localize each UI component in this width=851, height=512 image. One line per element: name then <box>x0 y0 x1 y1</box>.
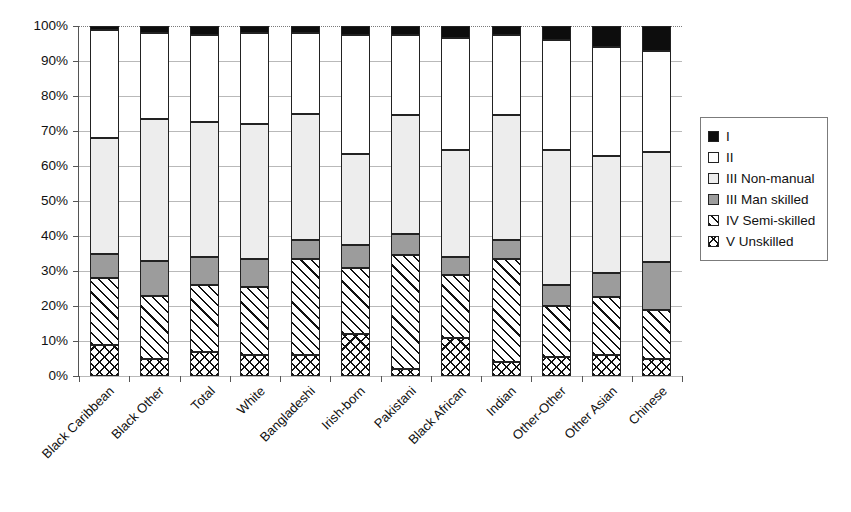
x-axis-label: Pakistani <box>371 384 418 431</box>
bar-segment[interactable] <box>492 240 521 259</box>
bar-segment[interactable] <box>341 245 370 268</box>
bar-other-asian[interactable] <box>592 26 621 376</box>
bar-segment[interactable] <box>492 26 521 35</box>
bar-segment[interactable] <box>542 150 571 285</box>
bar-segment[interactable] <box>291 355 320 376</box>
bar-segment[interactable] <box>190 352 219 377</box>
bar-bangladeshi[interactable] <box>291 26 320 376</box>
bar-segment[interactable] <box>391 255 420 369</box>
bar-white[interactable] <box>240 26 269 376</box>
x-axis-label: Black Other <box>109 384 167 442</box>
bar-segment[interactable] <box>592 273 621 298</box>
bar-segment[interactable] <box>492 35 521 116</box>
bar-segment[interactable] <box>190 285 219 352</box>
bar-segment[interactable] <box>90 278 119 345</box>
y-axis-tick-label: 70% <box>41 124 68 138</box>
bar-segment[interactable] <box>140 33 169 119</box>
bar-segment[interactable] <box>492 115 521 239</box>
bar-segment[interactable] <box>592 156 621 273</box>
bar-segment[interactable] <box>542 26 571 40</box>
bar-segment[interactable] <box>190 26 219 35</box>
bar-segment[interactable] <box>492 259 521 362</box>
plot-area <box>78 26 682 377</box>
bar-segment[interactable] <box>391 26 420 35</box>
bar-segment[interactable] <box>341 334 370 376</box>
bar-segment[interactable] <box>542 357 571 376</box>
bar-segment[interactable] <box>140 261 169 296</box>
bar-segment[interactable] <box>592 355 621 376</box>
bar-segment[interactable] <box>140 26 169 33</box>
bar-segment[interactable] <box>341 154 370 245</box>
bar-black-caribbean[interactable] <box>90 26 119 376</box>
legend-item-i[interactable]: I <box>708 126 821 147</box>
bar-segment[interactable] <box>441 26 470 38</box>
bar-segment[interactable] <box>441 257 470 275</box>
bar-segment[interactable] <box>642 262 671 309</box>
bar-segment[interactable] <box>391 115 420 234</box>
bar-segment[interactable] <box>642 51 671 153</box>
bar-segment[interactable] <box>492 362 521 376</box>
bar-segment[interactable] <box>140 296 169 359</box>
bar-segment[interactable] <box>90 26 119 30</box>
bar-chinese[interactable] <box>642 26 671 376</box>
bar-segment[interactable] <box>341 35 370 154</box>
bar-segment[interactable] <box>441 38 470 150</box>
legend-item-iv-semi-skilled[interactable]: IV Semi-skilled <box>708 210 821 231</box>
bar-segment[interactable] <box>391 234 420 255</box>
bar-segment[interactable] <box>642 359 671 377</box>
bar-segment[interactable] <box>240 26 269 33</box>
bar-other-other[interactable] <box>542 26 571 376</box>
bar-segment[interactable] <box>391 369 420 376</box>
bar-segment[interactable] <box>240 355 269 376</box>
bar-segment[interactable] <box>291 259 320 355</box>
bar-segment[interactable] <box>240 259 269 287</box>
bar-total[interactable] <box>190 26 219 376</box>
x-axis-label: Chinese <box>626 384 670 428</box>
bar-segment[interactable] <box>190 257 219 285</box>
bar-segment[interactable] <box>140 359 169 377</box>
x-axis-label: Irish-born <box>320 384 369 433</box>
legend-item-ii[interactable]: II <box>708 147 821 168</box>
bar-black-african[interactable] <box>441 26 470 376</box>
y-axis-tick-label: 100% <box>33 19 68 33</box>
bar-segment[interactable] <box>542 306 571 357</box>
bar-segment[interactable] <box>291 240 320 259</box>
bar-segment[interactable] <box>140 119 169 261</box>
bar-segment[interactable] <box>90 254 119 279</box>
bar-segment[interactable] <box>391 35 420 116</box>
bar-segment[interactable] <box>542 40 571 150</box>
bar-segment[interactable] <box>341 26 370 35</box>
bar-segment[interactable] <box>341 268 370 335</box>
bar-segment[interactable] <box>592 297 621 355</box>
bar-segment[interactable] <box>90 30 119 139</box>
legend-item-v-unskilled[interactable]: V Unskilled <box>708 231 821 252</box>
bar-segment[interactable] <box>291 114 320 240</box>
bar-segment[interactable] <box>90 345 119 377</box>
y-axis-tick-label: 20% <box>41 299 68 313</box>
bar-segment[interactable] <box>642 310 671 359</box>
bar-segment[interactable] <box>291 26 320 33</box>
bar-segment[interactable] <box>441 338 470 377</box>
bar-segment[interactable] <box>240 33 269 124</box>
bar-segment[interactable] <box>642 26 671 51</box>
bar-segment[interactable] <box>642 152 671 262</box>
bar-indian[interactable] <box>492 26 521 376</box>
bar-segment[interactable] <box>240 124 269 259</box>
legend-item-iii-man-skilled[interactable]: III Man skilled <box>708 189 821 210</box>
legend-swatch-icon <box>708 152 719 163</box>
bar-black-other[interactable] <box>140 26 169 376</box>
legend-swatch-icon <box>708 215 719 226</box>
bar-segment[interactable] <box>441 150 470 257</box>
bar-pakistani[interactable] <box>391 26 420 376</box>
bar-segment[interactable] <box>441 275 470 338</box>
bar-segment[interactable] <box>542 285 571 306</box>
bar-segment[interactable] <box>90 138 119 254</box>
legend-item-iii-non-manual[interactable]: III Non-manual <box>708 168 821 189</box>
bar-segment[interactable] <box>190 122 219 257</box>
bar-segment[interactable] <box>592 26 621 47</box>
bar-segment[interactable] <box>291 33 320 114</box>
bar-segment[interactable] <box>190 35 219 123</box>
bar-segment[interactable] <box>240 287 269 355</box>
bar-segment[interactable] <box>592 47 621 156</box>
bar-irish-born[interactable] <box>341 26 370 376</box>
